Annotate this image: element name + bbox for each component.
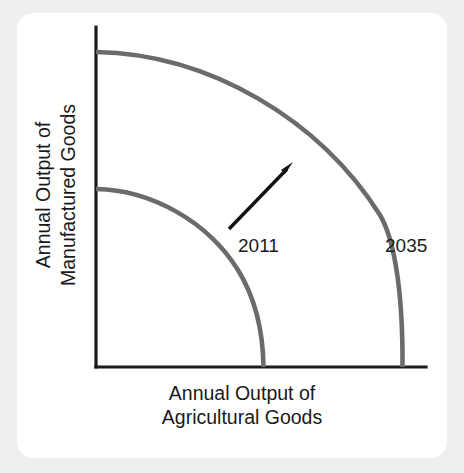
y-axis-title-line2: Manufactured Goods [57, 104, 79, 286]
ppf-curve-2011 [96, 189, 264, 367]
y-axis-title-line1: Annual Output of [32, 121, 54, 268]
x-axis-title-line1: Annual Output of [169, 382, 316, 404]
ppf-chart: 2011 2035 Annual Output of Agricultural … [0, 0, 464, 473]
growth-arrow-shaft [229, 169, 287, 229]
x-axis-title-line2: Agricultural Goods [162, 406, 323, 428]
curve-label-2011: 2011 [238, 235, 279, 256]
curve-label-2035: 2035 [385, 235, 427, 256]
